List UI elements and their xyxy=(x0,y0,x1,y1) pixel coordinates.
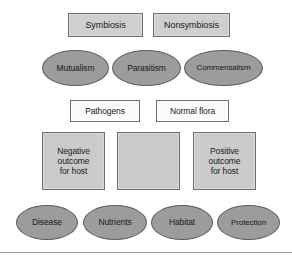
node-blank-outcome[interactable] xyxy=(117,132,180,190)
node-positive-outcome-label: Positive outcome for host xyxy=(209,146,241,176)
node-symbiosis-label: Symbiosis xyxy=(85,20,125,31)
node-nutrients[interactable]: Nutrients xyxy=(83,205,147,240)
node-parasitism[interactable]: Parasitism xyxy=(112,50,181,86)
node-normal-flora-label: Normal flora xyxy=(170,106,215,116)
node-symbiosis[interactable]: Symbiosis xyxy=(68,13,143,37)
node-commensalism-label: Commensalism xyxy=(197,63,251,72)
node-protection[interactable]: Protection xyxy=(217,205,280,240)
node-habitat-label: Habitat xyxy=(169,217,195,227)
node-normal-flora[interactable]: Normal flora xyxy=(156,100,229,122)
node-protection-label: Protection xyxy=(231,218,266,227)
node-nonsymbiosis-label: Nonsymbiosis xyxy=(164,20,219,31)
node-positive-outcome[interactable]: Positive outcome for host xyxy=(193,132,256,190)
node-pathogens-label: Pathogens xyxy=(85,106,125,116)
node-commensalism[interactable]: Commensalism xyxy=(184,50,263,86)
node-negative-outcome[interactable]: Negative outcome for host xyxy=(42,132,105,190)
node-nutrients-label: Nutrients xyxy=(98,217,131,227)
node-parasitism-label: Parasitism xyxy=(127,63,166,73)
diagram-canvas: Symbiosis Nonsymbiosis Mutualism Parasit… xyxy=(0,0,292,255)
node-pathogens[interactable]: Pathogens xyxy=(70,100,140,122)
node-nonsymbiosis[interactable]: Nonsymbiosis xyxy=(153,13,230,37)
node-disease-label: Disease xyxy=(32,217,62,227)
node-mutualism-label: Mutualism xyxy=(57,63,95,73)
node-disease[interactable]: Disease xyxy=(16,205,78,240)
node-habitat[interactable]: Habitat xyxy=(151,205,213,240)
node-mutualism[interactable]: Mutualism xyxy=(42,50,109,86)
bottom-divider xyxy=(0,252,292,253)
node-negative-outcome-label: Negative outcome for host xyxy=(57,146,90,176)
